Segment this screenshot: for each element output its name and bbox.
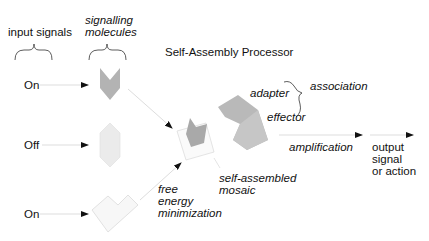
signalling-molecules-brace [89, 44, 126, 60]
flow-line-chevron [128, 89, 172, 128]
free-energy-label-line3: minimization [158, 207, 222, 219]
signalling-header-line2: molecules [85, 26, 137, 38]
effector-label: effector [267, 111, 305, 123]
output-label-line3: or action [372, 165, 416, 177]
input-label-3: On [24, 208, 39, 220]
chevron-molecule [100, 68, 120, 100]
mosaic-pointer [214, 158, 220, 168]
v-shape-molecule [92, 195, 138, 232]
input-signals-brace [15, 44, 52, 60]
association-label: association [310, 80, 368, 92]
input-label-2: Off [24, 139, 39, 151]
input-label-1: On [24, 79, 39, 91]
hexagon-molecule [100, 123, 120, 167]
free-energy-label-line1: free [158, 183, 178, 195]
self-assembled-label-line1: self-assembled [219, 172, 296, 184]
input-signals-header: input signals [8, 26, 72, 38]
output-label-line1: output [372, 141, 404, 153]
signalling-header-line1: signalling [85, 14, 133, 26]
processor-title: Self-Assembly Processor [165, 46, 293, 58]
amplification-label: amplification [289, 141, 353, 153]
adapter-label: adapter [250, 87, 289, 99]
output-label-line2: signal [372, 153, 402, 165]
free-energy-label-line2: energy [158, 195, 193, 207]
self-assembled-label-line2: mosaic [219, 184, 255, 196]
